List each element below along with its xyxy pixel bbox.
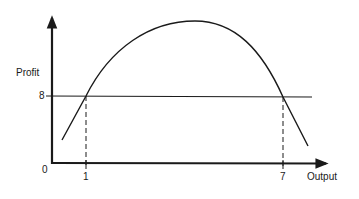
profit-curve xyxy=(62,21,308,146)
y-axis-label: Profit xyxy=(16,68,39,78)
x-tick-label-7: 7 xyxy=(280,172,286,182)
y-tick-label-8: 8 xyxy=(39,91,45,101)
profit-output-chart xyxy=(0,0,359,199)
origin-label: 0 xyxy=(42,165,48,175)
x-axis xyxy=(51,163,326,164)
x-tick-label-1: 1 xyxy=(83,172,89,182)
x-axis-label: Output xyxy=(307,172,337,182)
